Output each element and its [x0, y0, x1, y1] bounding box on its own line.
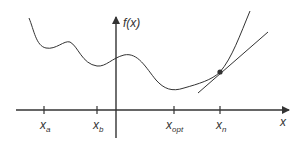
tangent-line [198, 32, 268, 93]
tick-label-xb: xb [93, 119, 103, 134]
tick-label-xa: xa [40, 119, 50, 134]
tangent-point [217, 69, 222, 74]
tick-label-xopt: xopt [166, 119, 183, 134]
diagram: f(x) x xa xb xopt xn [0, 0, 299, 145]
tick-label-xn: xn [216, 119, 226, 134]
x-axis-label: x [280, 116, 286, 128]
y-axis-label: f(x) [123, 17, 140, 29]
